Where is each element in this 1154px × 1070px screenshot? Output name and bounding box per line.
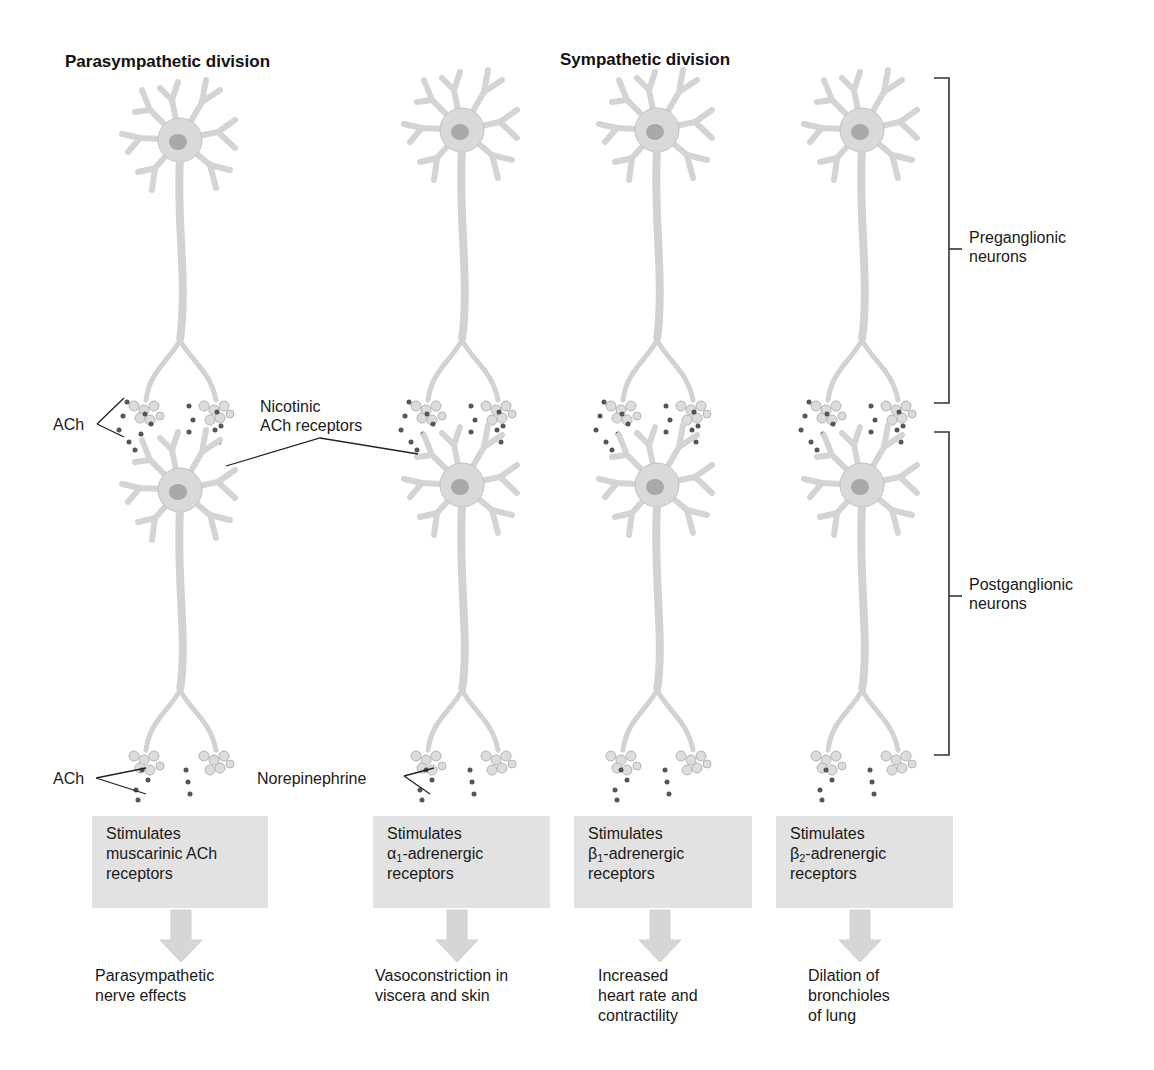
effect-alpha1: Vasoconstriction in viscera and skin xyxy=(375,966,508,1006)
ach-top-label: ACh xyxy=(53,415,84,434)
arrow-down-icon xyxy=(160,910,202,962)
neuron-column-alpha1 xyxy=(399,70,518,803)
sympathetic-heading: Sympathetic division xyxy=(560,50,730,70)
preganglionic-label: Preganglionic neurons xyxy=(969,228,1066,266)
neuron-column-beta1 xyxy=(594,70,713,803)
neuron-diagram xyxy=(0,0,1154,1070)
parasympathetic-heading: Parasympathetic division xyxy=(65,52,270,72)
postganglionic-bracket xyxy=(934,432,949,755)
preganglionic-bracket xyxy=(934,78,949,403)
receptor-box-muscarinic: Stimulates muscarinic ACh receptors xyxy=(92,816,268,908)
effect-parasympathetic: Parasympathetic nerve effects xyxy=(95,966,214,1006)
effect-beta2: Dilation of bronchioles of lung xyxy=(808,966,890,1026)
norepinephrine-label: Norepinephrine xyxy=(257,769,366,788)
receptor-box-beta2: Stimulates β2-adrenergic receptors xyxy=(776,816,953,908)
arrow-down-icon xyxy=(839,910,881,962)
postganglionic-label: Postganglionic neurons xyxy=(969,575,1073,613)
effect-beta1: Increased heart rate and contractility xyxy=(598,966,698,1026)
arrow-down-icon xyxy=(639,910,681,962)
neuron-column-parasympathetic xyxy=(117,80,236,803)
nicotinic-receptors-label: Nicotinic ACh receptors xyxy=(260,397,362,435)
arrow-down-icon xyxy=(436,910,478,962)
ach-bottom-label: ACh xyxy=(53,769,84,788)
nicotinic-leader xyxy=(226,438,418,466)
receptor-box-beta1: Stimulates β1-adrenergic receptors xyxy=(574,816,752,908)
receptor-box-alpha1: Stimulates α1-adrenergic receptors xyxy=(373,816,550,908)
neuron-column-beta2 xyxy=(799,70,918,803)
